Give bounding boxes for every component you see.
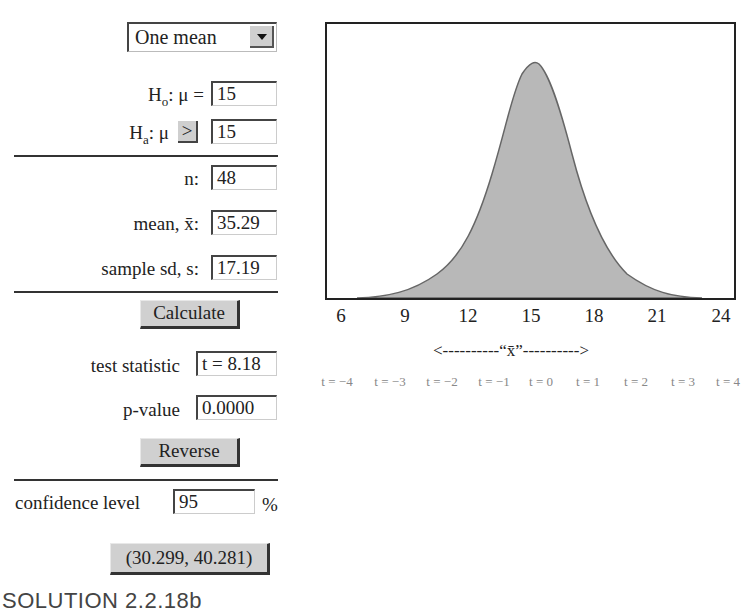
distribution-plot [325,22,736,300]
t-label: t = 1 [576,374,600,390]
confidence-level-input[interactable]: 95 [173,489,255,514]
t-label: t = 4 [716,374,740,390]
x-tick: 21 [648,305,667,327]
n-label: n: [184,168,199,190]
x-tick: 12 [459,305,478,327]
h0-input[interactable]: 15 [211,81,277,106]
solution-caption: SOLUTION 2.2.18b [2,588,202,612]
chevron-down-icon[interactable] [250,26,274,48]
t-label: t = −2 [426,374,457,390]
x-tick: 9 [400,305,410,327]
x-tick: 15 [522,305,541,327]
divider [14,291,278,293]
t-label: t = −3 [374,374,405,390]
ha-relation-button[interactable]: > [178,121,198,143]
n-input[interactable]: 48 [211,165,277,190]
pvalue-label: p-value [123,399,180,421]
confidence-level-label: confidence level [15,492,140,514]
test-type-select[interactable]: One mean [127,22,277,52]
ha-input[interactable]: 15 [211,119,277,144]
t-distribution-curve [327,24,734,298]
t-label: t = −1 [478,374,509,390]
percent-unit: % [262,494,278,516]
calculate-button[interactable]: Calculate [140,300,240,329]
t-label: t = −4 [321,374,352,390]
sd-input[interactable]: 17.19 [211,255,277,280]
t-label: t = 3 [671,374,695,390]
x-axis-label: <----------“x̄”----------> [433,341,589,361]
pvalue-output: 0.0000 [196,395,277,420]
x-tick: 6 [336,305,346,327]
mean-label: mean, x̄: [134,213,199,235]
sd-label: sample sd, s: [101,258,199,280]
confidence-interval-button[interactable]: (30.299, 40.281) [110,543,270,575]
test-type-value: One mean [135,26,217,49]
divider [14,479,278,481]
t-label: t = 0 [529,374,553,390]
test-statistic-output: t = 8.18 [196,351,277,376]
x-tick: 24 [712,305,731,327]
divider [14,155,278,157]
mean-input[interactable]: 35.29 [211,210,277,235]
t-label: t = 2 [624,374,648,390]
test-statistic-label: test statistic [91,355,180,377]
ha-label: Ha: μ [129,122,169,148]
x-tick: 18 [585,305,604,327]
h0-label: Ho: μ = [148,84,204,110]
reverse-button[interactable]: Reverse [140,438,240,467]
